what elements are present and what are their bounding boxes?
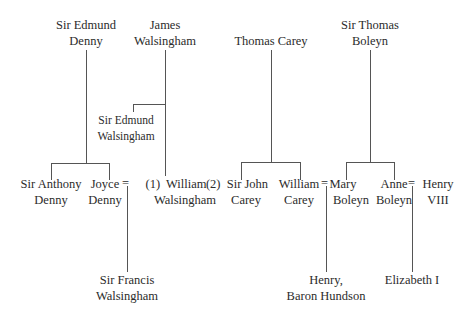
person-name-line: (1) William <box>136 176 216 192</box>
person-joyce-denny: Joyce Denny <box>88 176 121 208</box>
person-name-line: Sir Edmund <box>97 112 154 128</box>
person-henry-viii: Henry VIII <box>422 176 453 208</box>
person-name-line: Sir Edmund <box>56 17 116 33</box>
person-name-line: Henry <box>422 176 453 192</box>
person-name-line: William <box>279 176 319 192</box>
person-name-line: Joyce <box>88 176 121 192</box>
person-name-line: Denny <box>88 192 121 208</box>
person-name-line: Walsingham <box>96 288 158 304</box>
person-name-line: Anne <box>376 176 412 192</box>
person-name-line: Henry, <box>287 272 366 288</box>
person-sir-john-carey: (2) Sir John Carey <box>206 176 268 208</box>
person-anne-boleyn: Anne Boleyn <box>376 176 412 208</box>
family-tree-diagram: Sir Edmund Denny James Walsingham Thomas… <box>0 0 471 321</box>
person-name-line: Walsingham <box>97 128 154 144</box>
person-name-line: Sir Thomas <box>341 17 399 33</box>
person-sir-edmund-denny: Sir Edmund Denny <box>56 17 116 49</box>
person-thomas-carey: Thomas Carey <box>234 33 307 49</box>
person-sir-thomas-boleyn: Sir Thomas Boleyn <box>341 17 399 49</box>
marriage-symbol: = <box>408 175 415 191</box>
marriage-symbol: = <box>122 175 129 191</box>
person-name-line: Baron Hundson <box>287 288 366 304</box>
person-name-line: Denny <box>56 33 116 49</box>
person-william-walsingham: (1) William Walsingham <box>136 176 216 208</box>
person-mary-boleyn: Mary Boleyn <box>329 176 372 208</box>
person-name-line: VIII <box>422 192 453 208</box>
person-elizabeth-i: Elizabeth I <box>385 272 440 288</box>
person-name-line: Boleyn <box>376 192 412 208</box>
person-name-line: (2) Sir John <box>206 176 268 192</box>
person-name-line: Denny <box>21 192 82 208</box>
person-name-line: Thomas Carey <box>234 33 307 49</box>
person-name-line: Walsingham <box>134 33 196 49</box>
person-name-line: Carey <box>279 192 319 208</box>
person-name-line: Sir Anthony <box>21 176 82 192</box>
person-name-line: James <box>134 17 196 33</box>
person-henry-baron-hundson: Henry, Baron Hundson <box>287 272 366 304</box>
person-william-carey: William Carey <box>279 176 319 208</box>
person-sir-francis-walsingham: Sir Francis Walsingham <box>96 272 158 304</box>
marriage-symbol: = <box>321 175 328 191</box>
person-name-line: Boleyn <box>341 33 399 49</box>
person-sir-edmund-walsingham: Sir Edmund Walsingham <box>97 112 154 144</box>
person-james-walsingham: James Walsingham <box>134 17 196 49</box>
person-name-line: Boleyn <box>329 192 372 208</box>
person-name-line: Elizabeth I <box>385 272 440 288</box>
person-name-line: Carey <box>206 192 268 208</box>
person-name-line: Walsingham <box>136 192 216 208</box>
person-sir-anthony-denny: Sir Anthony Denny <box>21 176 82 208</box>
person-name-line: Sir Francis <box>96 272 158 288</box>
person-name-line: Mary <box>329 176 372 192</box>
